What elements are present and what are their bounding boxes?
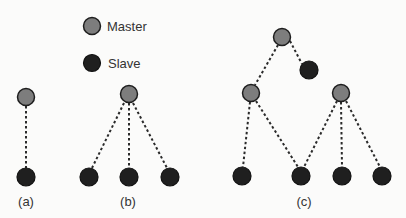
subfigure-label-a: (a) xyxy=(18,194,34,209)
slave-node xyxy=(333,167,351,185)
edge xyxy=(92,103,124,168)
legend: Master Slave xyxy=(84,18,148,72)
slave-node xyxy=(373,167,391,185)
legend-master-label: Master xyxy=(107,19,147,34)
slave-node xyxy=(161,168,179,186)
legend-master-icon xyxy=(84,18,101,35)
slave-node xyxy=(233,167,251,185)
master-node xyxy=(18,89,35,106)
diagram-canvas: Master Slave (a) (b) (c) xyxy=(0,0,406,218)
edge xyxy=(341,102,342,167)
root-master-node xyxy=(274,29,291,46)
sub-master-node xyxy=(243,85,260,102)
slave-node xyxy=(120,168,138,186)
slave-node xyxy=(80,168,98,186)
legend-slave-label: Slave xyxy=(108,56,141,71)
edge xyxy=(346,101,380,167)
subfigure-b: (b) xyxy=(80,86,179,210)
edge xyxy=(255,45,278,85)
subfigure-label-c: (c) xyxy=(296,194,311,209)
master-slave-diagram: Master Slave (a) (b) (c) xyxy=(0,0,406,218)
edge xyxy=(256,101,298,167)
slave-node xyxy=(300,61,318,79)
sub-master-node xyxy=(333,85,350,102)
legend-slave-icon xyxy=(84,55,101,72)
subfigure-c: (c) xyxy=(233,29,391,210)
edge xyxy=(133,103,167,168)
shared-slave-node xyxy=(292,167,310,185)
slave-node xyxy=(17,168,35,186)
subfigure-a: (a) xyxy=(17,89,35,210)
subfigure-label-b: (b) xyxy=(120,194,136,209)
edge xyxy=(290,41,302,64)
master-node xyxy=(121,86,138,103)
edge xyxy=(243,102,250,167)
edge xyxy=(304,101,337,167)
